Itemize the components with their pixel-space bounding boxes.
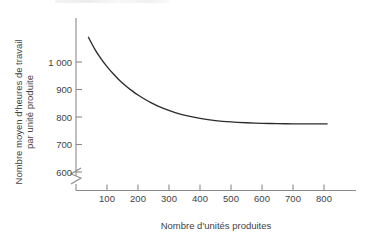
x-tick-labels: 100 200 300 400 500 600 700 800: [99, 193, 332, 204]
x-tick-label-700: 700: [285, 193, 301, 204]
x-tick-label-100: 100: [99, 193, 115, 204]
y-axis-title-line2: par unité produite: [24, 75, 35, 149]
y-tick-marks: [76, 62, 82, 172]
data-curve-learning: [88, 37, 327, 124]
x-tick-label-600: 600: [254, 193, 270, 204]
chart-canvas: 1 000 900 800 700 600 100 200 300 400 50…: [0, 0, 367, 237]
axis-break-icon: [71, 168, 81, 184]
x-tick-label-200: 200: [130, 193, 146, 204]
x-tick-label-300: 300: [161, 193, 177, 204]
x-axis-title: Nombre d'unités produites: [161, 220, 272, 231]
y-tick-labels: 1 000 900 800 700 600: [48, 57, 72, 178]
x-tick-label-400: 400: [192, 193, 208, 204]
y-axis: [71, 18, 81, 191]
y-tick-label-900: 900: [56, 84, 72, 95]
y-tick-label-700: 700: [56, 139, 72, 150]
x-tick-marks: [107, 185, 324, 191]
y-tick-label-600: 600: [56, 167, 72, 178]
x-tick-label-800: 800: [316, 193, 332, 204]
y-axis-title-group: Nombre moyen d'heures de travail par uni…: [13, 40, 35, 185]
y-axis-title-line1: Nombre moyen d'heures de travail: [13, 40, 24, 185]
learning-curve-figure: 1 000 900 800 700 600 100 200 300 400 50…: [0, 0, 367, 237]
x-tick-label-500: 500: [223, 193, 239, 204]
y-tick-label-1000: 1 000: [48, 57, 72, 68]
y-tick-label-800: 800: [56, 112, 72, 123]
